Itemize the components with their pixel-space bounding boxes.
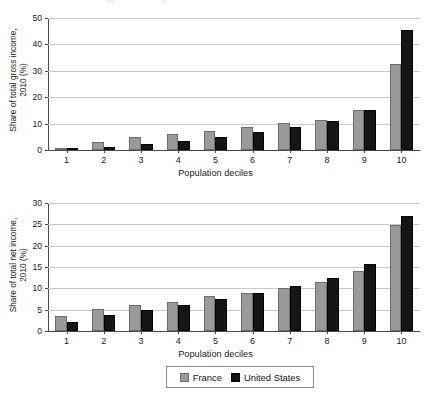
gross-x-tickmark	[215, 150, 216, 153]
net-y-tickmark	[45, 267, 48, 268]
gross-plot-area	[48, 18, 420, 150]
france-swatch-icon	[180, 373, 189, 382]
legend-label-france: France	[193, 372, 222, 383]
gross-y-tick-label: 10	[0, 119, 42, 129]
gross-y-tickmark	[45, 150, 48, 151]
gross-y-tickmark	[45, 18, 48, 19]
gross-bar-france-decile-10	[390, 64, 402, 150]
panel-net-income: Share of total net income, 2010 (%) Popu…	[0, 185, 431, 370]
net-y-tick-label: 20	[0, 241, 42, 251]
net-x-tickmark	[178, 331, 179, 334]
gross-x-tickmark	[178, 150, 179, 153]
gross-bar-united-states-decile-2	[104, 147, 116, 150]
gross-y-tickmark	[45, 71, 48, 72]
gross-y-axis-line	[48, 18, 49, 150]
net-x-tick-label: 9	[362, 336, 367, 346]
net-bar-united-states-decile-6	[253, 293, 265, 331]
net-x-tick-label: 10	[396, 336, 406, 346]
gross-bar-united-states-decile-10	[401, 30, 413, 150]
net-bar-united-states-decile-2	[104, 315, 116, 331]
net-bar-united-states-decile-10	[401, 216, 413, 331]
net-bar-united-states-decile-7	[290, 286, 302, 331]
gross-bar-united-states-decile-7	[290, 127, 302, 150]
net-bar-france-decile-2	[92, 309, 104, 331]
net-bar-united-states-decile-5	[215, 299, 227, 331]
gross-x-tick-label: 3	[138, 155, 143, 165]
net-bar-united-states-decile-3	[141, 310, 153, 331]
gross-bar-united-states-decile-6	[253, 132, 265, 150]
net-bar-france-decile-10	[390, 225, 402, 331]
net-x-tickmark	[141, 331, 142, 334]
gross-y-tickmark	[45, 44, 48, 45]
gross-x-tick-label: 6	[250, 155, 255, 165]
gross-x-tickmark	[104, 150, 105, 153]
net-x-tickmark	[327, 331, 328, 334]
net-bar-france-decile-5	[204, 296, 216, 331]
net-bar-france-decile-4	[167, 302, 179, 331]
legend-item-france: France	[180, 372, 222, 383]
gross-bar-united-states-decile-9	[364, 110, 376, 150]
gross-bar-france-decile-4	[167, 134, 179, 150]
panel-gross-income: Share of total gross income, 2010 (%) Po…	[0, 0, 431, 185]
gross-x-tickmark	[253, 150, 254, 153]
gross-x-tick-label: 1	[64, 155, 69, 165]
net-x-tick-label: 2	[101, 336, 106, 346]
net-gridline	[48, 203, 420, 204]
net-y-tick-label: 0	[0, 326, 42, 336]
net-plot-area	[48, 203, 420, 331]
gross-y-tick-label: 30	[0, 66, 42, 76]
net-y-tickmark	[45, 331, 48, 332]
net-y-tickmark	[45, 224, 48, 225]
net-y-tick-label: 15	[0, 262, 42, 272]
net-gridline	[48, 224, 420, 225]
gross-bar-united-states-decile-1	[67, 148, 79, 150]
gross-y-tick-label: 40	[0, 39, 42, 49]
gross-gridline	[48, 97, 420, 98]
net-x-tick-label: 7	[287, 336, 292, 346]
gross-x-tickmark	[401, 150, 402, 153]
gross-bar-united-states-decile-8	[327, 121, 339, 150]
gross-y-tick-label: 50	[0, 13, 42, 23]
net-x-tick-label: 3	[138, 336, 143, 346]
gross-x-tick-label: 4	[176, 155, 181, 165]
net-bar-united-states-decile-9	[364, 264, 376, 331]
net-x-tick-label: 1	[64, 336, 69, 346]
net-x-tick-label: 6	[250, 336, 255, 346]
gross-bar-united-states-decile-4	[178, 141, 190, 150]
net-x-tickmark	[364, 331, 365, 334]
gross-bar-france-decile-7	[278, 123, 290, 150]
net-y-tick-label: 25	[0, 219, 42, 229]
net-x-tick-label: 4	[176, 336, 181, 346]
gross-bar-france-decile-1	[55, 148, 67, 150]
gross-x-tick-label: 9	[362, 155, 367, 165]
net-bar-france-decile-7	[278, 288, 290, 331]
gross-x-tickmark	[364, 150, 365, 153]
two-panel-bar-chart-figure: Share of total gross income, 2010 (%) Po…	[0, 0, 431, 395]
gross-bar-france-decile-3	[129, 137, 141, 150]
gross-y-tickmark	[45, 124, 48, 125]
net-x-tickmark	[253, 331, 254, 334]
net-bar-united-states-decile-4	[178, 305, 190, 331]
legend-item-united-states: United States	[231, 372, 300, 383]
gross-x-tick-label: 7	[287, 155, 292, 165]
gross-bar-united-states-decile-5	[215, 137, 227, 150]
net-bar-france-decile-3	[129, 305, 141, 331]
net-bar-france-decile-1	[55, 316, 67, 331]
gross-gridline	[48, 44, 420, 45]
gross-bar-france-decile-9	[353, 110, 365, 150]
net-bar-united-states-decile-1	[67, 322, 79, 331]
net-y-tickmark	[45, 288, 48, 289]
net-bar-france-decile-8	[315, 282, 327, 331]
gross-bar-france-decile-6	[241, 127, 253, 150]
gross-x-tickmark	[290, 150, 291, 153]
net-bar-france-decile-9	[353, 271, 365, 331]
net-x-tickmark	[104, 331, 105, 334]
legend-label-united-states: United States	[244, 372, 300, 383]
net-x-tick-label: 8	[324, 336, 329, 346]
gross-y-axis-title: Share of total gross income, 2010 (%)	[8, 10, 28, 150]
gross-bar-france-decile-8	[315, 120, 327, 150]
net-gridline	[48, 246, 420, 247]
net-x-tick-label: 5	[213, 336, 218, 346]
net-y-tickmark	[45, 203, 48, 204]
gross-bar-united-states-decile-3	[141, 144, 153, 150]
